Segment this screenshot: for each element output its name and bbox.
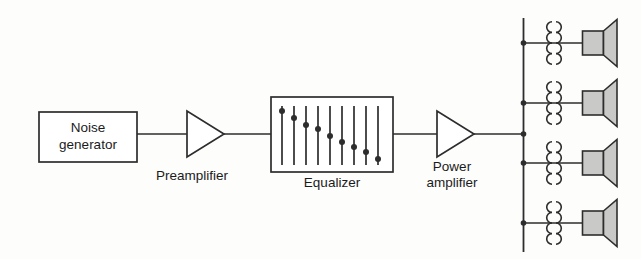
equalizer-slider-knob [303,122,309,128]
equalizer-slider-knob [339,139,345,145]
speaker-horn [604,20,618,67]
bus-junction-dot [521,160,527,166]
equalizer-slider-knob [327,133,333,139]
speaker-driver [583,91,604,115]
power-amplifier-label-line-1: Power [433,159,472,174]
speaker-driver [583,211,604,235]
equalizer-sliders [279,106,381,165]
speaker-horn [604,200,618,247]
speaker-horn [604,80,618,127]
loudspeaker [583,140,618,187]
speaker-branch [521,80,617,127]
power-amplifier-triangle [437,111,474,157]
loudspeaker [583,80,618,127]
speaker-driver [583,31,604,55]
equalizer-slider-knob [291,115,297,121]
loudspeaker [583,20,618,67]
speaker-driver [583,151,604,175]
equalizer-label: Equalizer [304,175,361,190]
speaker-branch [521,200,617,247]
speaker-branches [521,20,617,247]
block-diagram: Noise generator Preamplifier Equalizer P… [0,0,641,259]
equalizer-slider-knob [375,156,381,162]
equalizer-slider-knob [363,149,369,155]
equalizer-slider-knob [279,108,285,114]
equalizer-slider-knob [315,126,321,132]
preamplifier-label: Preamplifier [156,168,229,183]
equalizer-slider-knob [351,144,357,150]
preamplifier-triangle [187,111,224,157]
loudspeaker [583,200,618,247]
bus-junction-dot [521,100,527,106]
bus-junction-dot [521,220,527,226]
speaker-branch [521,140,617,187]
diagram-canvas: Noise generator Preamplifier Equalizer P… [0,0,641,259]
noise-generator-label-line-1: Noise [71,120,106,135]
noise-generator-label-line-2: generator [59,137,117,152]
bus-junction-dot [521,40,527,46]
power-amplifier-label-line-2: amplifier [426,175,478,190]
speaker-horn [604,140,618,187]
speaker-branch [521,20,617,67]
